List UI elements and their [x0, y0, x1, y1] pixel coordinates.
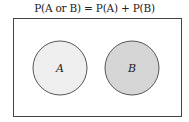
venn-diagram: A B [0, 0, 189, 122]
set-b-label: B [127, 62, 136, 75]
set-a-label: A [55, 62, 64, 75]
